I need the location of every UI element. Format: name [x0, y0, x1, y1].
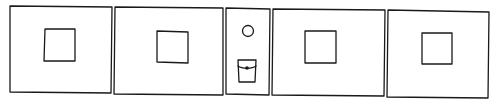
- square-icon: [422, 33, 452, 64]
- pocket-icon: [238, 60, 256, 82]
- panel-3: [226, 8, 270, 95]
- panel-4: [272, 9, 385, 96]
- dot-icon: [245, 66, 249, 70]
- square-icon: [305, 31, 336, 63]
- square-icon: [157, 31, 188, 63]
- sketch-diagram: [0, 0, 501, 102]
- square-icon: [44, 29, 75, 61]
- panel-1: [10, 6, 112, 93]
- panel-2: [114, 7, 223, 95]
- circle-icon: [243, 26, 254, 37]
- panel-5: [387, 10, 489, 98]
